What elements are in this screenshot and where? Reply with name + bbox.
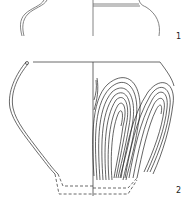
figure-label-1: 1: [176, 32, 181, 41]
vessel-1: [20, 0, 159, 36]
vessel-2-decoration: [93, 78, 174, 180]
pottery-drawing: [0, 0, 185, 199]
figure-label-2: 2: [176, 186, 181, 195]
